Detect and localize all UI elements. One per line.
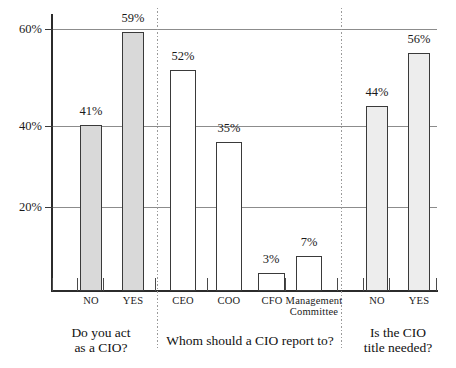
x-tick	[155, 278, 156, 291]
bar-value-group2-ceo: 52%	[163, 50, 203, 63]
group-caption-1-line2: as a CIO?	[48, 340, 154, 355]
category-label-group3-no: NO	[357, 295, 397, 307]
y-axis-label-20: 20%	[6, 201, 42, 213]
x-tick	[103, 278, 104, 291]
category-label-group2-committee: Committee	[285, 306, 343, 317]
y-tick-mark-20	[45, 207, 53, 208]
x-tick	[77, 278, 78, 291]
y-axis-label-40: 40%	[6, 120, 42, 132]
category-label-group2-management: Management	[285, 295, 343, 306]
y-tick-mark-60	[45, 29, 53, 30]
x-tick	[436, 278, 437, 291]
y-tick-mark-40	[45, 126, 53, 127]
x-tick	[207, 278, 208, 291]
x-tick	[389, 278, 390, 291]
y-axis-label-60: 60%	[6, 23, 42, 35]
bar-value-group1-yes: 59%	[113, 12, 153, 25]
category-label-group1-no: NO	[71, 295, 111, 307]
bar-value-group2-coo: 35%	[209, 122, 249, 135]
bar-group3-yes	[408, 53, 430, 291]
bar-value-group3-yes: 56%	[399, 33, 439, 46]
bar-value-group1-no: 41%	[71, 105, 111, 118]
category-label-group2-coo: COO	[209, 295, 249, 307]
group-caption-2-line1: Whom should a CIO report to?	[160, 333, 340, 348]
bar-chart: 60% 40% 20% 41% 59% NO YES Do you act as…	[0, 0, 456, 368]
bar-group2-ceo	[170, 70, 196, 291]
bar-group2-coo	[216, 142, 242, 291]
group-separator-1	[157, 8, 158, 348]
gridline-60	[52, 29, 437, 30]
x-tick	[52, 278, 53, 291]
category-label-group3-yes: YES	[399, 295, 439, 307]
group-caption-1-line1: Do you act	[48, 325, 154, 340]
category-label-group2-ceo: CEO	[163, 295, 203, 307]
bar-value-group2-cfo: 3%	[252, 253, 290, 266]
bar-group1-yes	[122, 32, 144, 291]
bar-group1-no	[80, 125, 102, 291]
y-axis-line	[51, 14, 53, 292]
bar-group3-no	[366, 106, 388, 291]
group-caption-3-line1: Is the CIO	[345, 325, 451, 340]
group-caption-3-line2: title needed?	[345, 340, 451, 355]
bar-value-group2-management-committee: 7%	[290, 236, 328, 249]
bar-group2-cfo	[258, 273, 285, 291]
x-tick	[337, 278, 338, 291]
category-label-group1-yes: YES	[113, 295, 153, 307]
bar-group2-management-committee	[296, 256, 322, 291]
x-tick	[285, 278, 286, 291]
bar-value-group3-no: 44%	[357, 86, 397, 99]
x-tick	[363, 278, 364, 291]
